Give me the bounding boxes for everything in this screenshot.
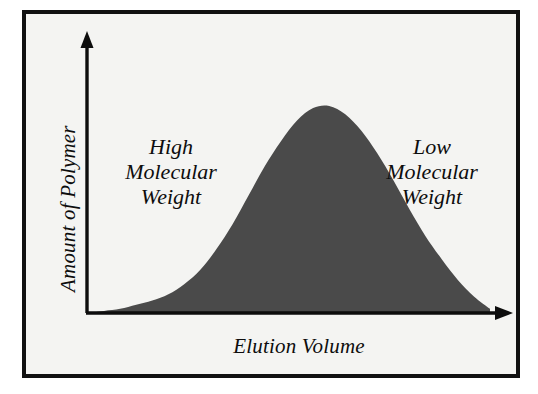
figure-root: Amount of Polymer Elution Volume High Mo… [0, 0, 538, 394]
y-axis-title: Amount of Polymer [58, 125, 79, 292]
x-axis-arrowhead [495, 306, 513, 320]
low-mw-line-1: Low [366, 134, 498, 159]
y-axis-arrowhead [81, 31, 94, 48]
low-molecular-weight-label: Low Molecular Weight [366, 134, 498, 209]
high-mw-line-2: Molecular [108, 159, 234, 184]
low-mw-line-2: Molecular [366, 159, 498, 184]
low-mw-line-3: Weight [366, 184, 498, 209]
x-axis-title: Elution Volume [0, 336, 538, 357]
high-mw-line-3: Weight [108, 184, 234, 209]
high-molecular-weight-label: High Molecular Weight [108, 134, 234, 209]
high-mw-line-1: High [108, 134, 234, 159]
